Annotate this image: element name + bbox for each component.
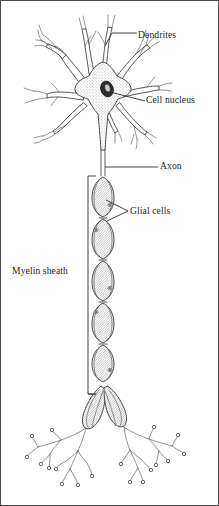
dendrite-twig: [34, 136, 43, 143]
myelin-segment: [92, 219, 114, 259]
label-axon: Axon: [160, 161, 182, 171]
myelin-segment: [92, 303, 114, 343]
label-myelin-sheath: Myelin sheath: [12, 266, 68, 276]
myelin-segment: [92, 177, 114, 217]
label-cell-nucleus: Cell nucleus: [146, 95, 195, 105]
axon-terminal-branches: [82, 386, 126, 429]
dendrite-branch: [82, 29, 94, 74]
dendrite-twig: [38, 25, 43, 40]
myelin-sheath-group: [92, 177, 114, 382]
dendrite-branch: [116, 103, 147, 135]
myelin-segment: [92, 345, 114, 382]
label-dendrites: Dendrites: [138, 30, 176, 40]
label-glial-cells: Glial cells: [130, 206, 170, 216]
axon-terminal-arbor: [25, 425, 185, 486]
dendrite-twig: [24, 88, 35, 103]
neuron-illustration: [0, 0, 219, 506]
axon-shaft: [101, 150, 105, 176]
neuron-diagram-figure: Dendrites Cell nucleus Axon Glial cells …: [0, 0, 219, 506]
dendrite-branch: [117, 45, 150, 79]
dendrite-twig: [79, 16, 96, 46]
myelin-segment: [92, 261, 114, 301]
